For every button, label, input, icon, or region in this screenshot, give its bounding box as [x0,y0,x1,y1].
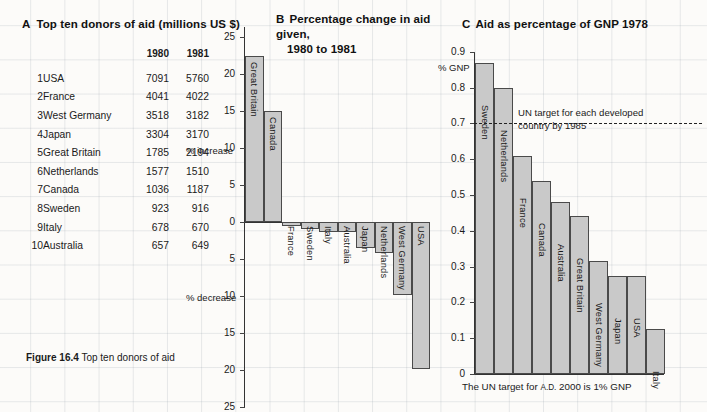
y-tick [240,259,245,260]
un-target-line1: UN target for each developed [518,107,643,118]
y-tick-label: 0.8 [439,82,465,93]
cell-rank: 10 [26,236,43,255]
panel-c-axis-label: % GNP [438,62,470,73]
table-row: 4Japan33043170 [26,125,209,144]
y-tick-label: 0 [209,216,235,227]
cell-name: Australia [43,236,129,255]
panel-b-decrease-label: % decrease [186,292,236,303]
bar-label: Great Britain [249,62,259,117]
cell-y1980: 923 [129,199,169,218]
table-row: 10Australia657649 [26,236,209,255]
th-rank [26,48,43,69]
bar-label: France [518,198,528,228]
table-row: 1USA70915760 [26,69,209,88]
y-tick-label: 0.7 [439,117,465,128]
y-tick-label: 15 [209,327,235,338]
y-tick-label: 0.5 [439,189,465,200]
cell-rank: 5 [26,143,43,162]
panel-b-chart: BPercentage change in aid given, 1980 to… [214,0,430,412]
y-tick-label: 0.4 [439,225,465,236]
cell-name: Sweden [43,199,129,218]
y-tick [470,52,475,53]
cell-y1981: 1510 [169,162,209,181]
bar-france [513,156,532,374]
y-tick-label: 5 [209,253,235,264]
panel-b-increase-label: % increase [186,145,233,156]
bar-label: Japan [360,226,370,252]
y-tick [470,374,475,375]
cell-name: Canada [43,181,129,200]
cell-y1981: 3170 [169,125,209,144]
y-tick-label: 0.6 [439,153,465,164]
cell-rank: 2 [26,88,43,107]
th-1980: 1980 [129,48,169,69]
bar-label: Sweden [305,226,315,261]
cell-y1980: 678 [129,218,169,237]
panel-c-letter: C [462,18,470,30]
panel-b-title-line1: Percentage change in aid given, [276,13,431,40]
y-tick [240,370,245,371]
bar-label: Japan [613,318,623,344]
figure-caption: Figure 16.4 Top ten donors of aid [26,352,186,365]
table-row: 9Italy678670 [26,218,209,237]
panel-a-letter: A [22,18,30,30]
footnote-part-a: The UN target for [462,381,538,392]
cell-rank: 8 [26,199,43,218]
panel-b-title-line2: 1980 to 1981 [287,43,357,55]
cell-y1981: 5760 [169,69,209,88]
y-tick [240,333,245,334]
bar-label: Sweden [480,105,490,140]
cell-name: USA [43,69,129,88]
cell-y1981: 670 [169,218,209,237]
bar-label: Australia [556,244,566,282]
y-tick-label: 0 [439,368,465,379]
y-tick-label: 25 [209,401,235,412]
cell-name: Japan [43,125,129,144]
y-tick-label: 0.9 [439,46,465,57]
cell-rank: 6 [26,162,43,181]
y-tick-label: 15 [209,105,235,116]
panel-a-title-text: Top ten donors of aid (millions US $) [36,18,239,30]
bar-label: USA [632,318,642,338]
y-tick-label: 0.3 [439,261,465,272]
panel-b-letter: B [276,13,284,25]
cell-rank: 4 [26,125,43,144]
bar-australia [551,202,570,374]
cell-y1980: 1785 [129,143,169,162]
un-target-annotation: UN target for each developed country by … [518,107,643,133]
y-tick-label: 5 [209,179,235,190]
y-tick-label: 20 [209,364,235,375]
bar-label: Canada [268,117,278,151]
footnote-ad: A.D. [540,383,556,392]
bar-label: France [286,226,296,256]
cell-y1980: 7091 [129,69,169,88]
panel-c-title: CAid as percentage of GNP 1978 [462,18,648,30]
figure-page: ATop ten donors of aid (millions US $) 1… [0,0,707,412]
panel-c-x-axis [474,374,664,375]
donors-table: 1980 1981 1USA709157602France404140223We… [26,48,209,255]
y-tick [240,37,245,38]
panel-a-table: ATop ten donors of aid (millions US $) 1… [0,0,215,412]
un-target-line2: country by 1985 [518,120,586,131]
y-tick [240,407,245,408]
table-header-row: 1980 1981 [26,48,209,69]
cell-y1980: 3304 [129,125,169,144]
cell-name: Italy [43,218,129,237]
bar-label: USA [416,226,426,246]
th-country [43,48,129,69]
y-tick-label: 0.2 [439,296,465,307]
cell-name: Great Britain [43,143,129,162]
cell-y1981: 1187 [169,181,209,200]
y-tick-label: 0.1 [439,332,465,343]
bar-label: Netherlands [379,226,389,278]
bar-label: Netherlands [499,130,509,182]
cell-y1980: 657 [129,236,169,255]
cell-y1980: 3518 [129,106,169,125]
bar-label: Italy [651,371,661,389]
bar-canada [532,181,551,374]
y-tick-label: 25 [209,31,235,42]
table-row: 2France40414022 [26,88,209,107]
figure-caption-label: Figure 16.4 [26,352,79,363]
cell-rank: 3 [26,106,43,125]
cell-y1981: 3182 [169,106,209,125]
